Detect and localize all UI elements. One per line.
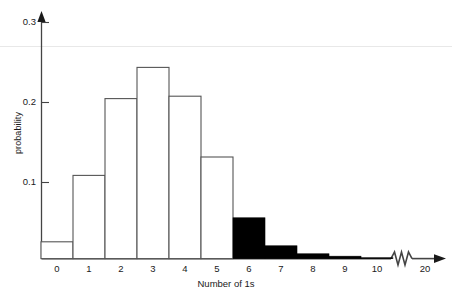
bar-9 (329, 256, 361, 258)
x-axis-tick-label-4: 4 (170, 263, 200, 274)
chart-figure: 0.3 0.2 0.1 probability 0 1 2 3 4 5 6 7 … (0, 0, 452, 295)
bar-5 (201, 157, 233, 259)
x-axis-tick-label-7: 7 (266, 263, 296, 274)
x-axis-tick-label-0: 0 (42, 263, 72, 274)
y-axis-arrowhead (37, 11, 45, 22)
bar-7 (265, 246, 297, 259)
x-axis-tick-label-1: 1 (74, 263, 104, 274)
y-axis-tick-label-0.1: 0.1 (2, 176, 36, 187)
bar-0 (41, 242, 73, 259)
y-axis-title: probability (13, 93, 23, 173)
bar-2 (105, 99, 137, 259)
bars-layer (41, 67, 393, 258)
x-axis-tick-label-6: 6 (234, 263, 264, 274)
x-axis-tick-label-9: 9 (330, 263, 360, 274)
x-axis-title: Number of 1s (0, 278, 452, 289)
x-axis-tick-label-8: 8 (298, 263, 328, 274)
y-axis-tick-label-0.3: 0.3 (2, 16, 36, 27)
x-axis-tick-label-2: 2 (106, 263, 136, 274)
bar-4 (169, 96, 201, 258)
bar-6 (233, 218, 265, 259)
probability-histogram-plot (0, 0, 452, 295)
bar-8 (297, 254, 329, 259)
x-axis-tick-label-10: 10 (362, 263, 392, 274)
x-axis-tick-label-5: 5 (202, 263, 232, 274)
bar-10 (361, 258, 393, 259)
bar-1 (73, 175, 105, 258)
x-axis-break-zigzag (391, 252, 412, 265)
y-axis (37, 11, 49, 259)
x-axis-tick-label-3: 3 (138, 263, 168, 274)
x-axis-tick-label-20: 20 (410, 263, 440, 274)
x-axis-arrowhead (434, 254, 446, 263)
bar-3 (137, 67, 169, 258)
